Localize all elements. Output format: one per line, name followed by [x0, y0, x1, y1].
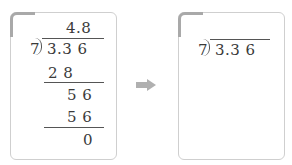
- right-arrow-icon: [136, 79, 156, 91]
- division-bar: [42, 38, 104, 39]
- final-remainder: 0: [83, 132, 93, 148]
- subtraction-line-1: [44, 82, 104, 83]
- subtraction-line-2: [44, 127, 104, 128]
- division-bar: [210, 39, 270, 40]
- worked-division-card: 4.8 7 3.3 6 2 8 5 6 5 6 0: [10, 12, 117, 160]
- division-bracket: [35, 38, 42, 55]
- dividend: 3.3 6: [47, 41, 88, 57]
- step2-product: 5 6: [67, 109, 92, 125]
- step1-product: 2 8: [48, 65, 73, 81]
- card-corner-accent: [10, 12, 35, 37]
- dividend: 3.3 6: [215, 42, 256, 58]
- blank-division-card: 7 3.3 6: [178, 12, 285, 160]
- division-bracket: [203, 39, 210, 56]
- step1-remainder: 5 6: [67, 87, 92, 103]
- quotient: 4.8: [66, 20, 91, 36]
- card-corner-accent: [178, 12, 203, 37]
